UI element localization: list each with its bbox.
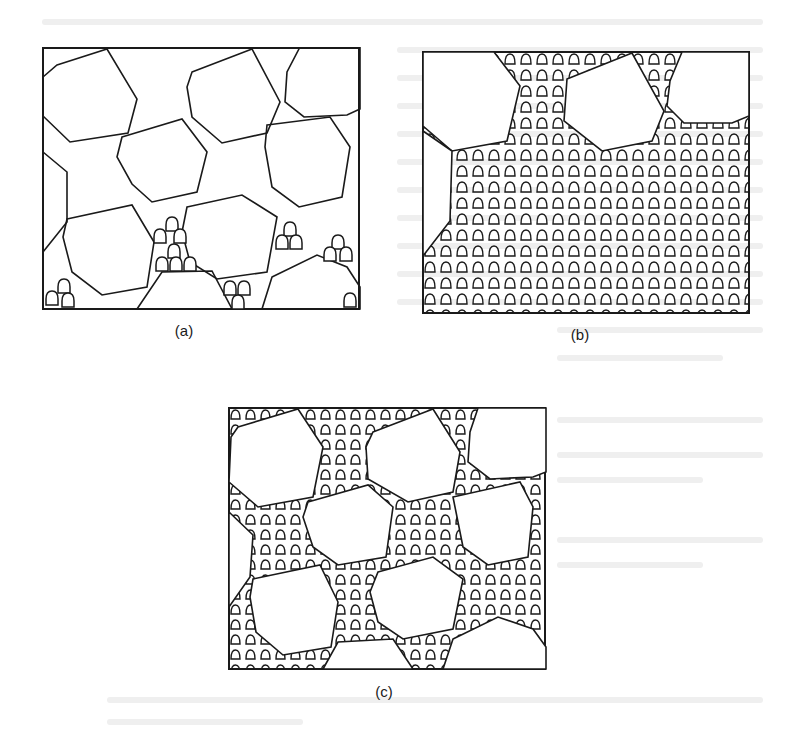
figure-panel-c (228, 407, 548, 672)
panel-label-a: (a) (164, 322, 204, 339)
figure-panel-a (42, 47, 362, 312)
microstructure-diagram-b (422, 51, 752, 316)
panel-label-c: (c) (364, 683, 404, 700)
microstructure-diagram-a (42, 47, 362, 312)
microstructure-diagram-c (228, 407, 548, 672)
panel-label-b: (b) (560, 326, 600, 343)
figure-panel-b (422, 51, 752, 316)
